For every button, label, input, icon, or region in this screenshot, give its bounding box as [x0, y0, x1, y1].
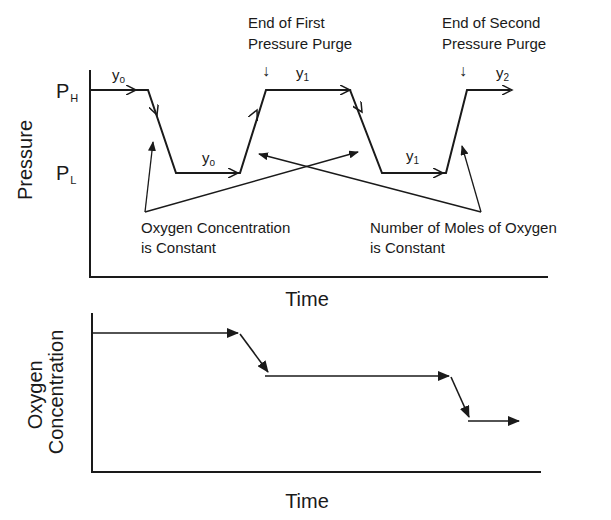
- level-high-label: PH: [56, 80, 78, 104]
- concentration-drop: [240, 334, 268, 372]
- callout-line: [462, 146, 481, 212]
- pressure-curve: [90, 90, 510, 173]
- first-purge-annotation: End of First Pressure Purge: [248, 14, 352, 52]
- segment-label: yo: [202, 149, 216, 168]
- segment-label: y1: [296, 64, 310, 83]
- segment-label: y1: [406, 147, 420, 166]
- pressure-axis-label: Pressure: [14, 120, 36, 200]
- second-purge-annotation: End of Second Pressure Purge: [442, 14, 546, 52]
- level-low-label: PL: [56, 162, 76, 186]
- moles-constant-annotation: Number of Moles of Oxygen is Constant: [370, 219, 561, 256]
- callout-line: [145, 152, 358, 212]
- pressure-purge-diagram: PH PL Pressure Time yo yo y1 y1 y2 End o…: [0, 0, 611, 520]
- callout-line: [145, 142, 153, 212]
- segment-label: yo: [112, 66, 126, 85]
- oxygen-concentration-chart: Oxygen Concentration Time: [24, 313, 541, 512]
- second-purge-arrow-icon: ↓: [459, 62, 467, 79]
- pressure-chart: PH PL Pressure Time yo yo y1 y1 y2 End o…: [14, 14, 561, 310]
- first-purge-arrow-icon: ↓: [262, 62, 270, 79]
- segment-label: y2: [496, 64, 510, 83]
- concentration-drop: [451, 377, 469, 417]
- time-axis-label-bottom: Time: [285, 490, 329, 512]
- oxygen-axis-label: Oxygen Concentration: [24, 330, 67, 455]
- time-axis-label-top: Time: [285, 288, 329, 310]
- oxygen-constant-annotation: Oxygen Concentration is Constant: [141, 219, 294, 256]
